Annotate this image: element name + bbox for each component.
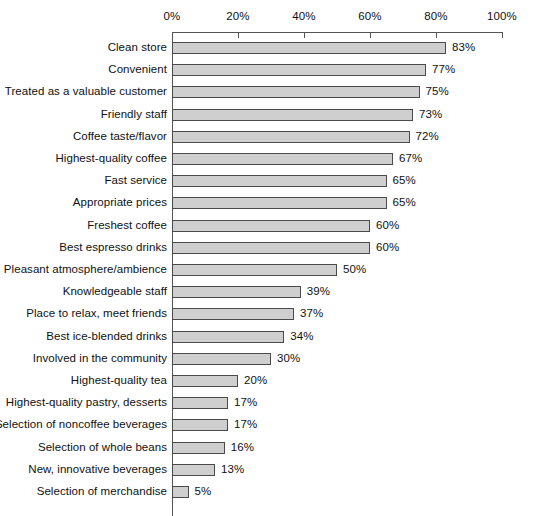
bar-rect xyxy=(172,353,271,365)
x-axis-tick-mark xyxy=(502,32,503,38)
bar-rect xyxy=(172,286,301,298)
bar-value-label: 72% xyxy=(416,130,439,142)
bar-rect xyxy=(172,375,238,387)
bar-rect xyxy=(172,131,410,143)
bar-value-label: 37% xyxy=(300,307,323,319)
bar-rect xyxy=(172,153,393,165)
bar-rect xyxy=(172,331,284,343)
bar-row: Best ice-blended drinks34% xyxy=(0,331,540,343)
bar-rect xyxy=(172,397,228,409)
bar-category-label: Highest-quality tea xyxy=(71,374,167,386)
bar-row: Fast service65% xyxy=(0,175,540,187)
bar-value-label: 60% xyxy=(376,241,399,253)
bar-row: Freshest coffee60% xyxy=(0,220,540,232)
bar-rect xyxy=(172,175,387,187)
bar-value-label: 83% xyxy=(452,41,475,53)
bar-rect xyxy=(172,242,370,254)
x-axis-tick-mark xyxy=(370,32,371,38)
bar-category-label: Best ice-blended drinks xyxy=(46,330,167,342)
bar-row: Best espresso drinks60% xyxy=(0,242,540,254)
bar-rect xyxy=(172,109,413,121)
bar-row: Appropriate prices65% xyxy=(0,197,540,209)
bar-value-label: 34% xyxy=(290,330,313,342)
bar-row: Friendly staff73% xyxy=(0,109,540,121)
bar-rect xyxy=(172,464,215,476)
bar-category-label: Freshest coffee xyxy=(87,219,167,231)
bar-row: Convenient77% xyxy=(0,64,540,76)
bar-value-label: 20% xyxy=(244,374,267,386)
x-axis-tick-label: 60% xyxy=(358,10,381,22)
bar-category-label: Knowledgeable staff xyxy=(63,285,167,297)
bar-category-label: Best espresso drinks xyxy=(59,241,167,253)
bar-category-label: Fast service xyxy=(104,174,167,186)
bar-row: Highest-quality pastry, desserts17% xyxy=(0,397,540,409)
bar-value-label: 17% xyxy=(234,396,257,408)
bar-category-label: Place to relax, meet friends xyxy=(26,307,167,319)
bar-value-label: 73% xyxy=(419,108,442,120)
bar-category-label: Selection of noncoffee beverages xyxy=(0,418,167,430)
bar-value-label: 39% xyxy=(307,285,330,297)
bar-rect xyxy=(172,86,420,98)
bar-value-label: 60% xyxy=(376,219,399,231)
x-axis-tick-mark xyxy=(436,32,437,38)
bar-category-label: Friendly staff xyxy=(101,108,167,120)
bar-category-label: Selection of merchandise xyxy=(37,485,167,497)
bar-value-label: 65% xyxy=(393,174,416,186)
bar-row: Selection of merchandise5% xyxy=(0,486,540,498)
bar-category-label: Highest-quality coffee xyxy=(56,152,167,164)
bar-category-label: Appropriate prices xyxy=(73,196,167,208)
bar-row: Pleasant atmosphere/ambience50% xyxy=(0,264,540,276)
bar-row: Selection of whole beans16% xyxy=(0,442,540,454)
bar-rect xyxy=(172,486,189,498)
x-axis-tick-label: 80% xyxy=(424,10,447,22)
bar-category-label: Treated as a valuable customer xyxy=(5,85,167,97)
bar-value-label: 75% xyxy=(426,85,449,97)
bar-rect xyxy=(172,419,228,431)
x-axis-tick-label: 40% xyxy=(292,10,315,22)
bar-rect xyxy=(172,264,337,276)
x-axis-tick-mark xyxy=(304,32,305,38)
bar-row: Place to relax, meet friends37% xyxy=(0,308,540,320)
bar-row: Clean store83% xyxy=(0,42,540,54)
x-axis-tick-label: 20% xyxy=(226,10,249,22)
bar-row: Involved in the community30% xyxy=(0,353,540,365)
bar-value-label: 16% xyxy=(231,441,254,453)
bar-category-label: Coffee taste/flavor xyxy=(73,130,167,142)
x-axis-tick-label: 0% xyxy=(164,10,181,22)
bar-rect xyxy=(172,308,294,320)
bar-row: Knowledgeable staff39% xyxy=(0,286,540,298)
x-axis-tick-mark xyxy=(238,32,239,38)
bar-rect xyxy=(172,197,387,209)
bar-value-label: 50% xyxy=(343,263,366,275)
bar-row: Selection of noncoffee beverages17% xyxy=(0,419,540,431)
bar-category-label: Selection of whole beans xyxy=(38,441,167,453)
bar-row: Highest-quality tea20% xyxy=(0,375,540,387)
bar-row: Treated as a valuable customer75% xyxy=(0,86,540,98)
bar-value-label: 30% xyxy=(277,352,300,364)
x-axis-tick-label: 100% xyxy=(487,10,517,22)
bar-category-label: Pleasant atmosphere/ambience xyxy=(4,263,167,275)
bar-category-label: Convenient xyxy=(108,63,167,75)
bar-row: Coffee taste/flavor72% xyxy=(0,131,540,143)
bar-rect xyxy=(172,442,225,454)
bar-value-label: 5% xyxy=(195,485,212,497)
bar-rect xyxy=(172,220,370,232)
bar-rect xyxy=(172,64,426,76)
bar-category-label: Clean store xyxy=(108,41,167,53)
bar-value-label: 65% xyxy=(393,196,416,208)
bar-category-label: Highest-quality pastry, desserts xyxy=(6,396,167,408)
bar-row: Highest-quality coffee67% xyxy=(0,153,540,165)
bar-row: New, innovative beverages13% xyxy=(0,464,540,476)
bar-value-label: 17% xyxy=(234,418,257,430)
bar-value-label: 13% xyxy=(221,463,244,475)
bar-category-label: Involved in the community xyxy=(33,352,167,364)
bar-rect xyxy=(172,42,446,54)
bar-value-label: 77% xyxy=(432,63,455,75)
x-axis-line xyxy=(172,32,502,33)
bar-value-label: 67% xyxy=(399,152,422,164)
bar-category-label: New, innovative beverages xyxy=(28,463,167,475)
